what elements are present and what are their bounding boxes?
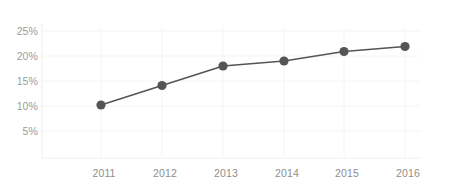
x-tick-label: 2011 [74,167,134,179]
x-axis-labels: 2011 2012 2013 2014 2015 2016 [0,0,473,193]
line-chart: 25% 20% 15% 10% 5% 2011 2012 2013 2014 2… [0,0,473,193]
x-tick-label: 2014 [257,167,317,179]
x-tick-label: 2016 [378,167,438,179]
x-tick-label: 2013 [196,167,256,179]
x-tick-label: 2012 [135,167,195,179]
x-tick-label: 2015 [317,167,377,179]
